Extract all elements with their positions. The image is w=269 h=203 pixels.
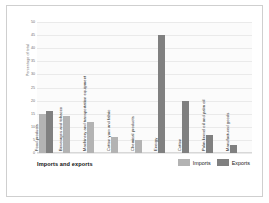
bar-group: Energy <box>158 22 182 153</box>
legend-swatch-exports <box>217 159 229 166</box>
y-tick-label: 30 <box>31 72 35 76</box>
x-axis-title: Imports and exports <box>37 161 93 167</box>
bar-series-container: Food productsBeverages and tobaccoMachin… <box>37 22 252 153</box>
plot-area: 05101520253035404550 Food productsBevera… <box>37 22 252 153</box>
category-label: Beverages and tobacco <box>58 107 63 151</box>
bar <box>230 145 237 153</box>
category-label: Manufactured goods <box>225 113 230 151</box>
bar <box>182 101 189 153</box>
bar <box>158 35 165 153</box>
bar <box>63 116 70 153</box>
y-tick-label: 50 <box>31 20 35 24</box>
category-label: Cotton <box>177 139 182 151</box>
category-label: Machinery and transportation equipment <box>82 76 87 151</box>
y-axis-title: Percentage of total <box>26 25 30 95</box>
category-label: Food products <box>34 124 39 151</box>
bar <box>46 111 53 153</box>
y-tick-label: 40 <box>31 46 35 50</box>
category-label: Chemical products <box>130 116 135 151</box>
legend-swatch-imports <box>178 159 190 166</box>
y-tick-label: 45 <box>31 33 35 37</box>
category-label: Cotton yarn and fabric <box>106 110 111 151</box>
bar <box>206 135 213 153</box>
y-tick-label: 0 <box>33 151 35 155</box>
legend-item-imports: Imports <box>178 159 211 166</box>
legend-label-exports: Exports <box>232 160 250 166</box>
chart-figure: Percentage of total 05101520253035404550… <box>0 0 269 203</box>
y-tick-label: 15 <box>31 112 35 116</box>
bar <box>87 122 94 153</box>
bar-group: Chemical products <box>135 22 159 153</box>
chart-legend: Imports Exports <box>178 159 250 166</box>
y-tick-label: 20 <box>31 99 35 103</box>
bar <box>39 114 46 153</box>
legend-item-exports: Exports <box>217 159 250 166</box>
bar <box>111 137 118 153</box>
category-label: Energy <box>153 138 158 151</box>
category-label: Palm kernel oil and palm oil <box>201 100 206 151</box>
y-tick-label: 25 <box>31 86 35 90</box>
y-tick-label: 35 <box>31 59 35 63</box>
chart-frame: Percentage of total 05101520253035404550… <box>6 5 263 197</box>
legend-label-imports: Imports <box>193 160 211 166</box>
gridline <box>37 153 252 154</box>
bar <box>135 140 142 153</box>
bar-group: Manufactured goods <box>230 22 254 153</box>
